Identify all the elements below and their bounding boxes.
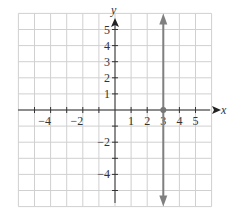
coordinate-plane: x y −4−21234554321−2−4 — [0, 0, 228, 214]
line-arrow-up-icon — [159, 13, 167, 24]
x-tick-label: 5 — [193, 114, 199, 128]
ticks: −4−21234554321−2−4 — [35, 23, 199, 191]
line-arrow-down-icon — [159, 196, 167, 207]
y-tick-label: 3 — [104, 55, 110, 69]
y-tick-label: 1 — [104, 87, 110, 101]
y-axis-label: y — [110, 3, 117, 17]
x-tick-label: 1 — [128, 114, 134, 128]
y-tick-label: −4 — [97, 167, 110, 181]
x-tick-label: −4 — [38, 114, 51, 128]
x-tick-label: −2 — [70, 114, 83, 128]
x-axis-arrow-icon — [212, 106, 221, 114]
y-tick-label: 4 — [104, 39, 110, 53]
y-tick-label: 5 — [104, 23, 110, 37]
x-tick-label: 2 — [144, 114, 150, 128]
data-series — [159, 13, 167, 206]
x-axis-label: x — [220, 103, 227, 117]
intercept-point — [160, 107, 166, 113]
y-tick-label: 2 — [104, 71, 110, 85]
x-tick-label: 4 — [176, 114, 182, 128]
y-tick-label: −2 — [97, 135, 110, 149]
